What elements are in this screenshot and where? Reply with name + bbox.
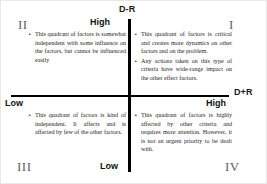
quadrant-text-ii: ▪ This quadrant of factors is somewhat i…	[29, 30, 126, 65]
bullet-text: This quadrant of factors is kind of inde…	[35, 111, 126, 137]
bullet-item: ▪ This quadrant of factors is somewhat i…	[29, 30, 126, 64]
quadrant-numeral-ii: II	[18, 17, 28, 33]
horizontal-axis-low-marker: Low	[5, 98, 23, 108]
bullet-item: ▪ This quadrant of factors is critical a…	[135, 30, 232, 56]
quadrant-text-iii: ▪ This quadrant of factors is kind of in…	[29, 111, 126, 138]
quadrant-diagram: D-R D+R High Low Low High II I III IV ▪ …	[0, 0, 267, 184]
quadrant-text-iv: ▪ This quadrant of factors is highly aff…	[135, 111, 232, 155]
bullet-text: This quadrant of factors is somewhat ind…	[35, 30, 126, 64]
quadrant-numeral-iv: IV	[225, 159, 240, 175]
horizontal-axis-line	[11, 95, 229, 97]
bullet-item: ▪ This quadrant of factors is highly aff…	[135, 111, 232, 154]
quadrant-text-i: ▪ This quadrant of factors is critical a…	[135, 30, 232, 83]
horizontal-axis-high-marker: High	[206, 98, 226, 108]
vertical-axis-high-marker: High	[90, 17, 110, 27]
vertical-axis-low-marker: Low	[100, 161, 118, 171]
bullet-item: ▪ Any actions taken on this type of crit…	[135, 57, 232, 83]
bullet-text: This quadrant of factors is critical and…	[141, 30, 232, 56]
vertical-axis-label: D-R	[119, 4, 135, 14]
quadrant-numeral-iii: III	[17, 159, 32, 175]
bullet-text: This quadrant of factors is highly affec…	[141, 111, 232, 154]
horizontal-axis-label: D+R	[234, 87, 253, 97]
bullet-text: Any actions taken on this type of criter…	[141, 57, 232, 83]
bullet-item: ▪ This quadrant of factors is kind of in…	[29, 111, 126, 137]
